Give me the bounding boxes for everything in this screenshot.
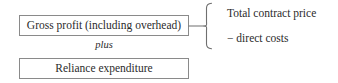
box-reliance-expenditure-label: Reliance expenditure [55, 63, 152, 75]
brace-entry-direct-costs: − direct costs [227, 33, 288, 45]
operator-plus-label: plus [19, 40, 189, 51]
curly-brace-icon [186, 0, 222, 54]
brace-stroke [204, 3, 212, 49]
box-gross-profit: Gross profit (including overhead) [19, 15, 189, 36]
box-reliance-expenditure: Reliance expenditure [19, 58, 189, 79]
diagram-canvas: Gross profit (including overhead) plus R… [0, 0, 338, 83]
box-gross-profit-label: Gross profit (including overhead) [27, 20, 181, 32]
brace-entry-total-contract-price: Total contract price [227, 8, 316, 20]
